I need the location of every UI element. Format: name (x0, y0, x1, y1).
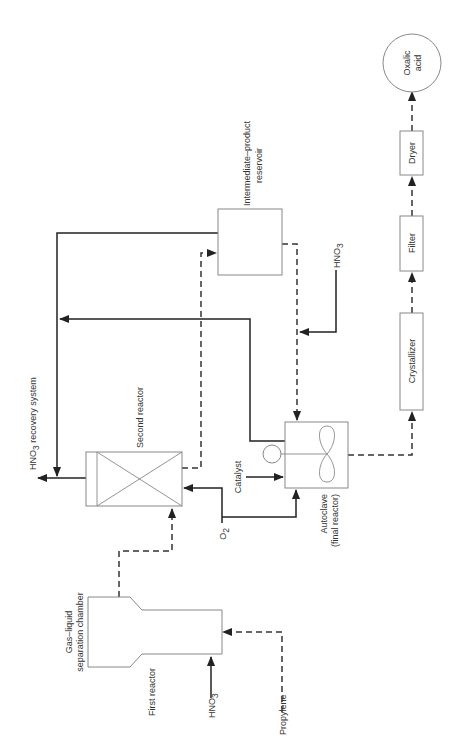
label-recovery-system: HNO3 recovery system (28, 377, 41, 470)
autoclave (263, 422, 348, 488)
label-o2: O2 (218, 528, 231, 540)
label-gas-liquid-2: separation chamber (75, 592, 85, 672)
hno3-autoclave-feed (300, 270, 336, 332)
label-dryer: Dryer (407, 142, 417, 164)
label-crystallizer: Crystallizer (407, 339, 417, 384)
label-autoclave: Autoclave (319, 494, 329, 534)
process-flow-diagram: Oxalic acid Dryer Filter Crystallizer In… (0, 0, 454, 756)
label-hno3-autoclave: HNO3 (332, 243, 345, 268)
label-hno3-first: HNO3 (207, 693, 220, 718)
propylene-feed (223, 632, 282, 712)
reservoir-to-autoclave (282, 244, 297, 420)
second-reactor (86, 452, 182, 506)
label-oxalic: Oxalic (402, 50, 412, 76)
autoclave-gas-line (60, 319, 285, 441)
label-gas-liquid-1: Gas–liquid (64, 611, 74, 654)
label-reservoir-2: reservoir (254, 148, 264, 183)
o2-to-second-reactor (184, 488, 222, 523)
label-final-reactor: (final reactor) (330, 494, 340, 547)
first-reactor-unit (88, 597, 222, 667)
autoclave-to-crystallizer (348, 412, 412, 455)
label-catalyst: Catalyst (233, 460, 243, 493)
intermediate-product-reservoir (218, 209, 282, 275)
label-reservoir-1: Intermediate–product (242, 120, 252, 206)
label-propylene: Propylene (278, 694, 288, 735)
second-reactor-to-reservoir (182, 253, 216, 468)
label-acid: acid (413, 55, 423, 72)
label-second-reactor: Second reactor (135, 387, 145, 448)
chamber-to-second-reactor (119, 509, 172, 597)
label-first-reactor: First reactor (147, 668, 157, 716)
oxalic-acid-product (383, 34, 441, 92)
label-filter: Filter (407, 233, 417, 253)
